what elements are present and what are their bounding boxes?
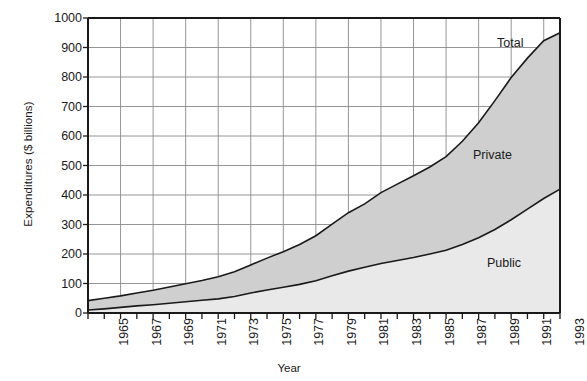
x-axis-tick-label: 1991 — [541, 318, 554, 368]
x-axis-tick-label: 1969 — [183, 318, 196, 368]
x-axis-tick-label: 1989 — [509, 318, 522, 368]
x-axis-tick-label: 1977 — [313, 318, 326, 368]
x-axis-tick-label: 1971 — [216, 318, 229, 368]
x-axis-title: Year — [0, 362, 578, 374]
series-label-total: Total — [497, 36, 523, 50]
x-axis-tick-label: 1965 — [118, 318, 131, 368]
x-axis-tick-label: 1967 — [151, 318, 164, 368]
x-axis-tick-label: 1983 — [411, 318, 424, 368]
x-axis-tick-label: 1993 — [574, 318, 587, 368]
series-label-public: Public — [487, 256, 521, 270]
x-axis-tick-label: 1985 — [444, 318, 457, 368]
x-axis-tick-label: 1979 — [346, 318, 359, 368]
y-axis-title: Expenditures ($ billions) — [22, 44, 34, 284]
x-axis-tick-label: 1973 — [248, 318, 261, 368]
x-axis-tick-label: 1981 — [378, 318, 391, 368]
x-axis-tick-label: 1987 — [476, 318, 489, 368]
x-axis-tick-label: 1975 — [281, 318, 294, 368]
series-label-private: Private — [473, 148, 512, 162]
